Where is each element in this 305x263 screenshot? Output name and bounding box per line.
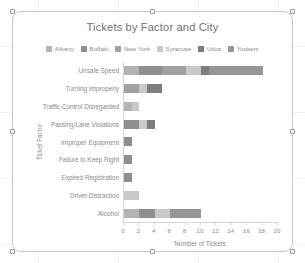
bar-row	[124, 186, 277, 204]
bar-segment[interactable]	[147, 84, 162, 93]
x-axis-tick	[169, 222, 170, 225]
legend-swatch-icon	[46, 46, 52, 52]
x-axis-tick-label: 12	[212, 227, 219, 234]
bar-segment[interactable]	[139, 209, 154, 218]
x-axis-tick	[138, 222, 139, 225]
bar-segment[interactable]	[139, 66, 162, 75]
x-axis-tick	[215, 222, 216, 225]
legend-item[interactable]: Utica	[198, 45, 221, 52]
bar-segment[interactable]	[155, 209, 170, 218]
bar-segment[interactable]	[124, 137, 132, 146]
category-label: Alcohol	[29, 204, 123, 222]
bar-segment[interactable]	[124, 102, 132, 111]
x-axis-tick-label: 10	[197, 227, 204, 234]
legend-item[interactable]: Buffalo	[81, 45, 109, 52]
x-axis-tick-label: 4	[152, 227, 155, 234]
legend-swatch-icon	[81, 46, 87, 52]
x-axis-tick	[246, 222, 247, 225]
legend-swatch-icon	[115, 46, 121, 52]
chart-title[interactable]: Tickets by Factor and City	[13, 21, 292, 33]
bar-segment[interactable]	[147, 120, 155, 129]
category-label: Unsafe Speed	[29, 62, 123, 80]
bar-segment[interactable]	[124, 120, 139, 129]
x-axis-tick-label: 14	[227, 227, 234, 234]
x-axis-tick-label: 20	[274, 227, 281, 234]
bar-segment[interactable]	[209, 66, 263, 75]
bar-segment[interactable]	[139, 120, 147, 129]
x-axis-tick	[185, 222, 186, 225]
legend-item[interactable]: New York	[115, 45, 150, 52]
chart-object[interactable]: Tickets by Factor and City AlbanyBuffalo…	[12, 11, 293, 252]
bar-segment[interactable]	[170, 209, 201, 218]
category-label: Turning Improperly	[29, 80, 123, 98]
legend-label: Buffalo	[89, 45, 108, 52]
bar-segment[interactable]	[124, 209, 139, 218]
bar-segment[interactable]	[139, 84, 147, 93]
bar-segment[interactable]	[124, 84, 139, 93]
category-label: Driver Distraction	[29, 186, 123, 204]
x-axis-tick-label: 18	[258, 227, 265, 234]
resize-handle-top-center[interactable]	[150, 9, 155, 14]
x-axis-tick-label: 0	[121, 227, 124, 234]
legend-swatch-icon	[157, 46, 163, 52]
resize-handle-top-right[interactable]	[290, 9, 295, 14]
legend-item[interactable]: Syracuse	[157, 45, 191, 52]
legend-label: Yonkers	[236, 45, 258, 52]
bar-segment[interactable]	[162, 66, 185, 75]
resize-handle-top-left[interactable]	[10, 9, 15, 14]
stacked-bar[interactable]	[124, 120, 155, 129]
bar-segment[interactable]	[201, 66, 209, 75]
x-axis-tick-label: 6	[167, 227, 170, 234]
stacked-bar[interactable]	[124, 173, 132, 182]
bar-segment[interactable]	[186, 66, 201, 75]
category-label: Traffic Control Disregarded	[29, 98, 123, 116]
category-label: Improper Equipment	[29, 133, 123, 151]
x-axis-tick	[262, 222, 263, 225]
category-label: Failure to Keep Right	[29, 151, 123, 169]
legend-label: Utica	[207, 45, 221, 52]
x-axis-tick-label: 2	[137, 227, 140, 234]
stacked-bar[interactable]	[124, 209, 201, 218]
stacked-bar[interactable]	[124, 66, 263, 75]
x-axis-tick	[231, 222, 232, 225]
stacked-bar[interactable]	[124, 102, 139, 111]
resize-handle-bottom-right[interactable]	[290, 249, 295, 254]
y-axis-category-labels[interactable]: Unsafe SpeedTurning ImproperlyTraffic Co…	[29, 62, 123, 222]
stacked-bar[interactable]	[124, 137, 132, 146]
bar-row	[124, 133, 277, 151]
legend-swatch-icon	[228, 46, 234, 52]
bar-row	[124, 98, 277, 116]
stacked-bar[interactable]	[124, 155, 132, 164]
legend-item[interactable]: Yonkers	[228, 45, 259, 52]
bar-row	[124, 169, 277, 187]
x-axis-tick-label: 8	[183, 227, 186, 234]
plot-area[interactable]	[123, 62, 277, 222]
category-label: Expired Registration	[29, 169, 123, 187]
stacked-bar[interactable]	[124, 191, 139, 200]
x-axis-tick	[200, 222, 201, 225]
legend-swatch-icon	[198, 46, 204, 52]
bar-row	[124, 62, 277, 80]
bar-segment[interactable]	[124, 155, 132, 164]
chart-legend[interactable]: AlbanyBuffaloNew YorkSyracuseUticaYonker…	[13, 45, 292, 52]
bar-row	[124, 80, 277, 98]
resize-handle-bottom-left[interactable]	[10, 249, 15, 254]
bar-row	[124, 115, 277, 133]
resize-handle-bottom-center[interactable]	[150, 249, 155, 254]
legend-item[interactable]: Albany	[46, 45, 73, 52]
bar-segment[interactable]	[124, 173, 132, 182]
bar-segment[interactable]	[124, 191, 139, 200]
legend-label: Albany	[55, 45, 74, 52]
category-label: Passing/Lane Violations	[29, 115, 123, 133]
plot-wrapper: Ticket Factor Unsafe SpeedTurning Improp…	[13, 62, 294, 222]
legend-label: New York	[124, 45, 150, 52]
bar-segment[interactable]	[132, 102, 140, 111]
stacked-bar[interactable]	[124, 84, 162, 93]
x-axis-tick	[123, 222, 124, 225]
x-axis-tick-label: 16	[243, 227, 250, 234]
bar-row	[124, 151, 277, 169]
x-axis-tick	[154, 222, 155, 225]
x-axis-tick	[277, 222, 278, 225]
x-axis-title[interactable]: Number of Tickets	[123, 240, 277, 247]
bar-segment[interactable]	[124, 66, 139, 75]
